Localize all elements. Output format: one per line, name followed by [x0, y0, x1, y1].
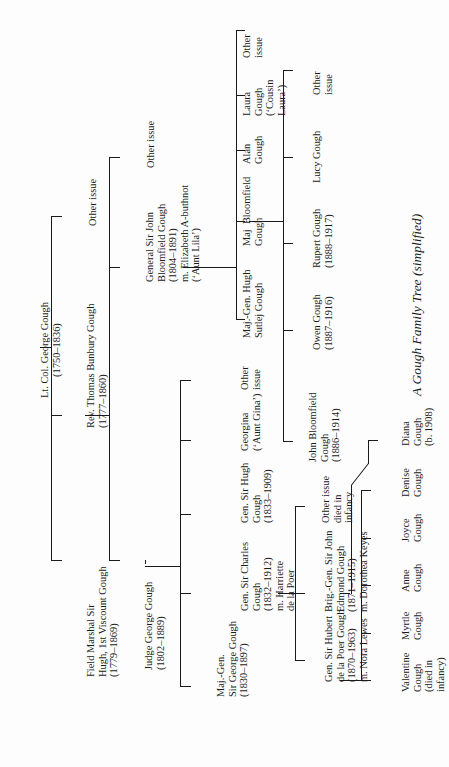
person-valentine: ValentineGough(died ininfancy): [377, 653, 449, 692]
connector: [236, 30, 245, 31]
person-owen: Owen Gough(1887–1916): [288, 294, 357, 350]
person-other-issue: Other issue: [64, 179, 122, 226]
connector: [368, 440, 369, 464]
connector: [145, 560, 146, 564]
person-denise: DeniseGough: [377, 468, 446, 497]
person-other-issue: Other issue: [122, 121, 180, 168]
person-judge-george: Judge George Gough(1802–1889): [120, 582, 189, 670]
person-john-bloomfield-jr: John BloomfieldGough(1886–1914): [284, 392, 365, 462]
person-other-issue-infancy: Other issuedied ininfancy: [297, 476, 378, 523]
connector: [180, 514, 191, 515]
connector: [145, 566, 181, 567]
connector: [180, 380, 191, 381]
connector: [109, 157, 120, 158]
person-other-issue: Otherissue: [288, 71, 357, 95]
person-other-issue: Otherissue: [218, 34, 287, 58]
person-general-john-bloomfield: General Sir JohnBloomfield Gough(1804–18…: [121, 185, 225, 282]
person-myrtle: MyrtleGough: [377, 612, 446, 640]
connector: [51, 216, 62, 217]
person-gen-hugh: Gen. Sir HughGough(1833–1909): [216, 463, 297, 523]
connector: [180, 686, 191, 687]
connector: [51, 415, 62, 416]
person-joyce: JoyceGough: [377, 514, 446, 542]
connector: [109, 560, 120, 561]
person-other-issue: Otherissue: [216, 366, 285, 390]
person-diana: DianaGough(b. 1908): [377, 408, 449, 446]
person-anne: AnneGough: [377, 564, 446, 592]
person-georgina: Georgina(‘Aunt Gina’): [216, 394, 285, 451]
person-maj-gen-hugh-sutlej: Maj.-Gen. HughSutlej Gough: [218, 270, 287, 338]
figure-caption: A Gough Family Tree (simplified): [409, 214, 425, 396]
person-rev-thomas-bunbury: Rev. Thomas Bunbury Gough(1777–1860): [62, 304, 131, 428]
book-page: Lt. Col. George Gough(1750–1836) Field M…: [0, 0, 449, 767]
connector: [109, 267, 120, 268]
person-maj-bloomfield: Maj BloomfieldGough: [218, 177, 287, 246]
connector: [180, 440, 191, 441]
person-lucy: Lucy Gough: [288, 131, 346, 183]
connector: [51, 560, 62, 561]
person-maj-gen-george: Maj.-Gen.Sir George Gough(1830–1897): [192, 621, 273, 697]
person-rupert: Rupert Gough(1888–1917): [288, 209, 357, 268]
person-alan: AlanGough: [218, 136, 287, 164]
